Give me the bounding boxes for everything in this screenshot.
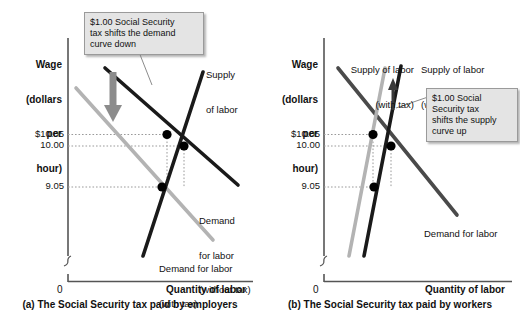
curve-label-line: Supply of labor (332, 64, 414, 76)
callout-demand-shift-a: $1.00 Social Security tax shifts the dem… (84, 12, 204, 55)
callout-line: Security tax (432, 104, 512, 115)
callout-line: curve up (432, 126, 512, 137)
callout-supply-shift-b: $1.00 Social Security tax shifts the sup… (426, 88, 518, 142)
curve-demand-with-tax-a (76, 88, 213, 240)
point-905-a (157, 182, 166, 191)
panel-b-caption: (b) The Social Security tax paid by work… (260, 299, 520, 310)
panel-a-caption: (a) The Social Security tax paid by empl… (0, 299, 260, 310)
curve-label-demand-b: Demand for labor (424, 205, 497, 263)
curve-label-line: (with tax) (332, 99, 414, 111)
y-tick-label-905-b: 9.05 (270, 180, 320, 191)
curve-label-line: Demand for labor (159, 263, 232, 275)
point-905-b (369, 182, 378, 191)
y-tick-label-1000-a: 10.00 (14, 139, 64, 150)
curve-label-line: Demand for labor (424, 228, 497, 240)
y-axis-title-b: Wage (dollars per hour) (262, 36, 318, 197)
y-axis-title-line: hour) (6, 163, 62, 175)
figure-root: Wage (dollars per hour) $10.05 10.00 9.0… (0, 0, 520, 326)
curve-supply-a (143, 72, 203, 256)
point-1000-a (179, 141, 188, 150)
callout-line: $1.00 Social (432, 93, 512, 104)
callout-line: curve down (90, 39, 198, 50)
y-tick-label-905-a: 9.05 (14, 180, 64, 191)
y-tick-label-1005-b: $10.05 (270, 128, 320, 139)
y-axis-title-line: hour) (262, 163, 318, 175)
curve-label-line: of labor (206, 104, 238, 116)
y-axis-title-line: Wage (262, 59, 318, 71)
point-1005-a (162, 130, 171, 139)
y-axis-title-line: (dollars (6, 94, 62, 106)
curve-label-line: Supply (206, 69, 238, 81)
callout-line: tax shifts the demand (90, 28, 198, 39)
point-1000-b (386, 141, 395, 150)
curve-label-line: Demand (199, 215, 251, 227)
y-tick-label-1000-b: 10.00 (270, 139, 320, 150)
callout-line: shifts the supply (432, 115, 512, 126)
panel-b: Wage (dollars per hour) $10.05 10.00 9.0… (260, 0, 520, 326)
callout-line: $1.00 Social Security (90, 17, 198, 28)
y-axis-title-line: Wage (6, 59, 62, 71)
y-axis-title-a: Wage (dollars per hour) (6, 36, 62, 197)
y-tick-label-1005-a: $10.05 (14, 128, 64, 139)
panel-a: Wage (dollars per hour) $10.05 10.00 9.0… (0, 0, 260, 326)
curve-label-supply-with-tax-b: Supply of labor (with tax) (332, 41, 414, 133)
origin-label-b: 0 (313, 284, 319, 295)
curve-label-line: Supply of labor (421, 64, 484, 76)
x-axis-title-b: Quantity of labor (425, 284, 505, 295)
curve-label-demand-with-tax-a: Demand for labor (with tax) (159, 240, 232, 326)
curve-label-supply-a: Supply of labor (206, 46, 238, 138)
origin-label-a: 0 (57, 284, 63, 295)
y-axis-title-line: (dollars (262, 94, 318, 106)
